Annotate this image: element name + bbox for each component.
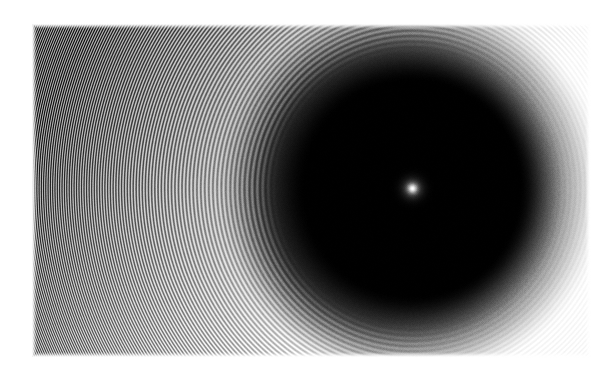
figure-root: Concentric interference fringe pattern w… xyxy=(0,0,612,381)
interferogram-image xyxy=(0,0,612,381)
